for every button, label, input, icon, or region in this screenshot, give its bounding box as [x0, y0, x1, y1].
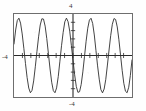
graph-figure: 4 -4 -4	[0, 0, 146, 111]
y-axis-max-label: 4	[69, 2, 72, 10]
sine-wave-plot	[14, 14, 132, 97]
plot-frame	[13, 13, 133, 98]
y-axis-min-label: -4	[69, 100, 74, 108]
x-axis-min-label: -4	[2, 53, 7, 61]
